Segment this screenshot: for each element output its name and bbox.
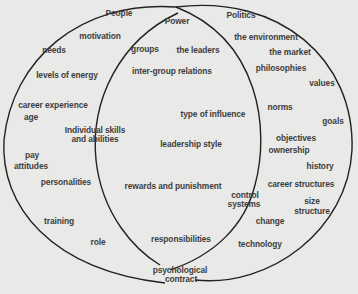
label-objectives: objectives [276, 134, 316, 143]
label-people: People [106, 9, 133, 18]
label-values: values [309, 79, 334, 88]
label-pay: pay [25, 151, 39, 160]
label-change: change [256, 217, 285, 226]
label-rewards-and-punishment: rewards and punishment [125, 182, 222, 191]
label-career-experience: career experience [18, 101, 88, 110]
label-the-leaders: the leaders [176, 46, 219, 55]
label-norms: norms [267, 103, 292, 112]
label-technology: technology [238, 240, 282, 249]
label-the-environment: the environment [234, 33, 298, 42]
label-career-structures: career structures [268, 180, 335, 189]
label-the-market: the market [269, 48, 310, 57]
label-power: Power [165, 17, 190, 26]
label-leadership-style: leadership style [160, 140, 222, 149]
label-age: age [24, 113, 38, 122]
label-role: role [91, 238, 106, 247]
label-philosophies: philosophies [256, 64, 306, 73]
label-politics: Politics [227, 11, 256, 20]
label-systems: systems [228, 200, 261, 209]
label-type-of-influence: type of influence [181, 110, 246, 119]
label-groups: groups [131, 45, 159, 54]
label-attitudes: attitudes [14, 162, 48, 171]
label-motivation: motivation [79, 32, 120, 41]
label-contract: contract [165, 275, 197, 284]
label-ownership: ownership [269, 146, 310, 155]
label-needs: needs [42, 46, 66, 55]
label-personalities: personalities [41, 178, 91, 187]
label-levels-of-energy: levels of energy [36, 71, 98, 80]
label-training: training [44, 217, 74, 226]
label-responsibilities: responsibilities [151, 235, 211, 244]
venn-diagram: Peoplemotivationneedslevels of energycar… [0, 0, 358, 294]
label-history: history [306, 162, 333, 171]
label-inter-group-relations: inter-group relations [132, 67, 212, 76]
label-and-abilities: and abilities [71, 135, 118, 144]
label-size: size [304, 197, 319, 206]
label-goals: goals [322, 117, 343, 126]
label-structure: structure [294, 207, 329, 216]
